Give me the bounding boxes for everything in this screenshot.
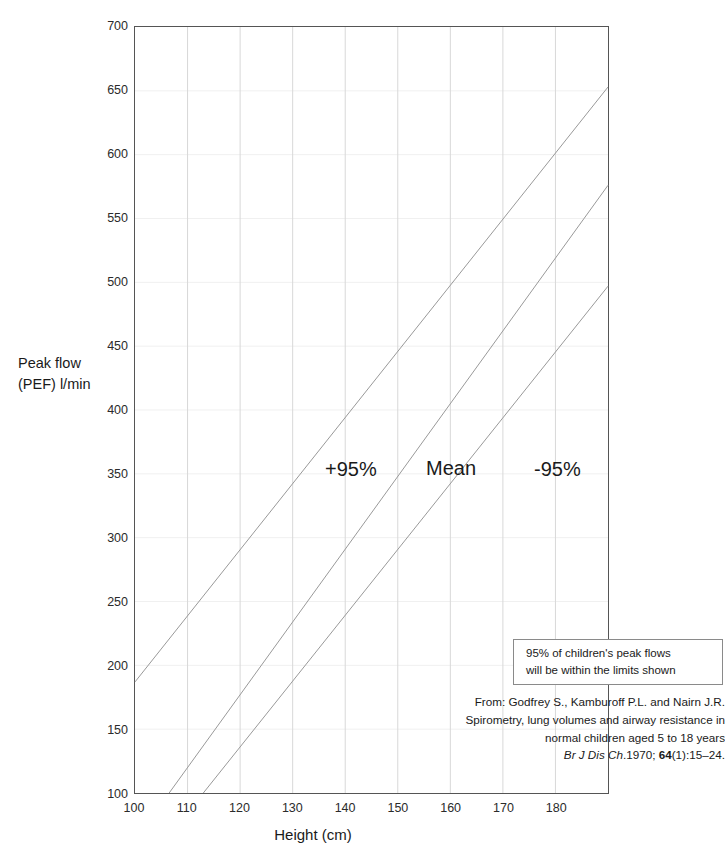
x-tick-170: 170 [473, 802, 533, 815]
y-tick-650: 650 [88, 84, 128, 97]
y-tick-400: 400 [88, 404, 128, 417]
series-label-mean: Mean [426, 458, 476, 478]
y-axis-tick-labels: 100150200250300350400450500550600650700 [84, 26, 128, 794]
y-tick-100: 100 [88, 788, 128, 801]
citation-volume: 64 [659, 748, 672, 761]
note-box-line1: 95% of children's peak flows [526, 645, 722, 662]
annotation-note-box: 95% of children's peak flows will be wit… [513, 639, 723, 685]
citation-line-2: Spirometry, lung volumes and airway resi… [415, 711, 725, 729]
y-tick-500: 500 [88, 276, 128, 289]
y-tick-300: 300 [88, 532, 128, 545]
series-label-upper-95: +95% [325, 459, 377, 479]
citation-line-4: Br J Dis Ch.1970; 64(1):15–24. [415, 746, 725, 764]
citation-pages: (1):15–24. [672, 748, 725, 761]
citation-year: .1970; [623, 748, 659, 761]
citation-line-3: normal children aged 5 to 18 years [415, 729, 725, 747]
y-tick-250: 250 [88, 596, 128, 609]
x-tick-100: 100 [104, 802, 164, 815]
y-axis-title-line1: Peak flow [18, 353, 91, 374]
y-tick-450: 450 [88, 340, 128, 353]
x-axis-tick-labels: 100110120130140150160170180 [0, 802, 626, 822]
plot-area: +95% Mean -95% 95% of children's peak fl… [134, 26, 609, 794]
note-box-line2: will be within the limits shown [526, 662, 722, 679]
x-tick-140: 140 [315, 802, 375, 815]
citation-block: From: Godfrey S., Kamburoff P.L. and Nai… [415, 693, 725, 764]
x-tick-130: 130 [262, 802, 322, 815]
y-tick-550: 550 [88, 212, 128, 225]
series-label-lower-95: -95% [534, 459, 581, 479]
y-tick-350: 350 [88, 468, 128, 481]
y-tick-150: 150 [88, 724, 128, 737]
citation-line-1: From: Godfrey S., Kamburoff P.L. and Nai… [415, 693, 725, 711]
citation-journal: Br J Dis Ch [564, 748, 623, 761]
x-tick-180: 180 [526, 802, 586, 815]
y-tick-600: 600 [88, 148, 128, 161]
x-tick-120: 120 [210, 802, 270, 815]
x-tick-150: 150 [368, 802, 428, 815]
y-axis-title: Peak flow (PEF) l/min [18, 353, 91, 395]
y-tick-200: 200 [88, 660, 128, 673]
x-tick-110: 110 [157, 802, 217, 815]
y-axis-title-line2: (PEF) l/min [18, 374, 91, 395]
y-tick-700: 700 [88, 20, 128, 33]
x-axis-title: Height (cm) [0, 826, 626, 843]
x-tick-160: 160 [421, 802, 481, 815]
